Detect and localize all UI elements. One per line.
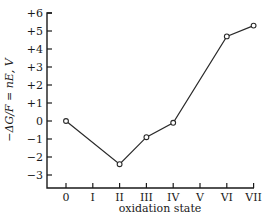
x-tick-label: I xyxy=(91,191,95,204)
data-point-marker xyxy=(117,162,122,167)
y-tick-label: +6 xyxy=(27,7,43,20)
y-tick-label: +1 xyxy=(27,97,43,110)
data-point-marker xyxy=(251,23,256,28)
x-tick-label: 0 xyxy=(63,191,70,204)
x-axis-ticks: 0IIIIIIIVVVIVII xyxy=(63,183,262,204)
y-tick-label: +2 xyxy=(27,79,43,92)
x-tick-label: VI xyxy=(220,191,233,204)
y-tick-label: +4 xyxy=(27,43,43,56)
data-series xyxy=(64,23,256,166)
y-axis-title: −ΔG/F = nE, V xyxy=(3,57,16,142)
y-tick-label: 0 xyxy=(36,115,43,128)
y-tick-label: −3 xyxy=(27,169,43,182)
y-tick-label: +3 xyxy=(27,61,43,74)
x-tick-label: VII xyxy=(244,191,262,204)
x-axis-title: oxidation state xyxy=(119,202,202,215)
frost-diagram-chart: +6+5+4+3+2+10−1−2−3 0IIIIIIIVVVIVII oxid… xyxy=(0,0,270,223)
data-point-marker xyxy=(171,120,176,125)
axis-lines xyxy=(47,13,254,188)
data-point-marker xyxy=(224,34,229,39)
data-point-marker xyxy=(144,135,149,140)
series-line xyxy=(66,26,254,165)
y-axis-ticks: +6+5+4+3+2+10−1−2−3 xyxy=(27,7,52,182)
y-tick-label: +5 xyxy=(27,25,43,38)
axes xyxy=(47,13,254,188)
y-tick-label: −2 xyxy=(27,151,43,164)
y-tick-label: −1 xyxy=(27,133,43,146)
data-point-marker xyxy=(64,119,69,124)
